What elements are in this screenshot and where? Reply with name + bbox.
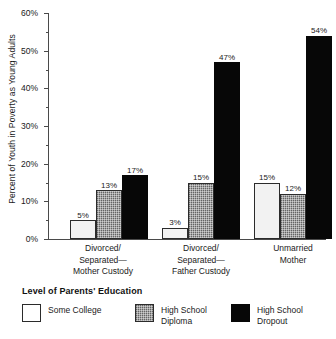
plot-area: 60% 50% 40% 30% 20% 10% 0% 5% 13%: [48, 13, 326, 239]
bar-group1-hs-dropout[interactable]: 47%: [214, 62, 240, 239]
y-tick-label-20: 20%: [21, 159, 38, 169]
y-tick-label-0: 0%: [26, 234, 38, 244]
x-axis-line: [48, 239, 326, 240]
bar-value-label: 15%: [259, 173, 275, 182]
y-tick-40: 40%: [44, 88, 48, 89]
y-tick-minor-45: [46, 70, 48, 71]
y-tick-label-30: 30%: [21, 121, 38, 131]
bar-value-label: 12%: [285, 184, 301, 193]
bar-group0-hs-dropout[interactable]: 17%: [122, 175, 148, 239]
legend-swatch-hs-dropout: [231, 304, 250, 322]
legend-item-hs-dropout[interactable]: High School Dropout: [231, 304, 303, 326]
bar-value-label: 47%: [219, 53, 235, 62]
bar-group2-some-college[interactable]: 15%: [254, 183, 280, 240]
y-tick-label-50: 50%: [21, 46, 38, 56]
y-tick-minor-25: [46, 145, 48, 146]
bar-group0-some-college[interactable]: 5%: [70, 220, 96, 239]
bar-group0-hs-diploma[interactable]: 13%: [96, 190, 122, 239]
bar-value-label: 3%: [169, 218, 181, 227]
bar-group1-some-college[interactable]: 3%: [162, 228, 188, 239]
legend-label: High School Dropout: [257, 304, 303, 326]
bar-group2-hs-diploma[interactable]: 12%: [280, 194, 306, 239]
y-tick-minor-15: [46, 183, 48, 184]
y-tick-20: 20%: [44, 164, 48, 165]
legend-swatch-hs-diploma: [135, 304, 154, 322]
y-tick-minor-55: [46, 32, 48, 33]
y-axis-title: Percent of Youth in Poverty as Young Adu…: [7, 9, 21, 229]
y-tick-label-40: 40%: [21, 83, 38, 93]
y-tick-60: 60%: [44, 13, 48, 14]
bar-value-label: 17%: [127, 166, 143, 175]
bar-value-label: 54%: [311, 26, 327, 35]
y-tick-0: 0%: [44, 239, 48, 240]
y-tick-minor-35: [46, 107, 48, 108]
legend-item-some-college[interactable]: Some College: [22, 304, 101, 322]
bar-value-label: 13%: [101, 181, 117, 190]
y-tick-label-10: 10%: [21, 196, 38, 206]
y-tick-30: 30%: [44, 126, 48, 127]
y-tick-10: 10%: [44, 201, 48, 202]
legend: Level of Parents' Education Some College…: [22, 286, 322, 332]
legend-swatch-some-college: [22, 304, 41, 322]
bar-group1-hs-diploma[interactable]: 15%: [188, 183, 214, 240]
legend-items: Some College High School Diploma High Sc…: [22, 304, 322, 332]
y-tick-50: 50%: [44, 51, 48, 52]
x-category-label-2: Unmarried Mother: [236, 243, 336, 266]
y-tick-minor-5: [46, 220, 48, 221]
legend-label: Some College: [48, 304, 101, 316]
bar-value-label: 5%: [77, 211, 89, 220]
bar-value-label: 15%: [193, 173, 209, 182]
legend-label: High School Diploma: [161, 304, 207, 326]
bar-group2-hs-dropout[interactable]: 54%: [306, 36, 332, 239]
legend-item-hs-diploma[interactable]: High School Diploma: [135, 304, 207, 326]
y-tick-label-60: 60%: [21, 8, 38, 18]
y-axis-line: [48, 13, 49, 240]
legend-title: Level of Parents' Education: [22, 286, 322, 296]
